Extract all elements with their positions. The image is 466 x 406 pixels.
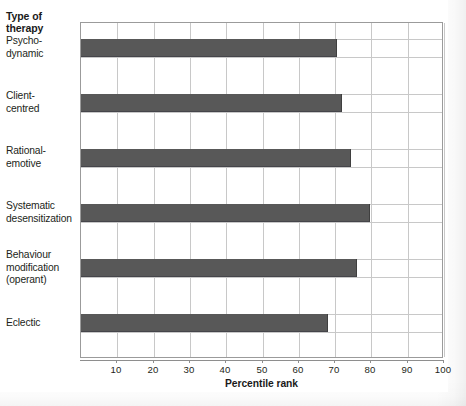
category-label: Eclectic — [6, 317, 84, 330]
x-axis-tick-label: 50 — [247, 364, 277, 375]
gridline-vertical — [117, 23, 118, 357]
category-label-line: Client- — [6, 90, 35, 101]
category-axis-label-column: Type of therapy Psycho-dynamicClient-cen… — [6, 10, 78, 358]
x-axis-tick-label: 80 — [355, 364, 385, 375]
category-label: Systematicdesensitization — [6, 200, 84, 225]
gridline-horizontal — [81, 332, 442, 333]
category-label: Client-centred — [6, 90, 84, 115]
page-background: Type of therapy Psycho-dynamicClient-cen… — [0, 0, 466, 406]
x-axis-tick-label: 10 — [101, 364, 131, 375]
gridline-horizontal — [81, 57, 442, 58]
category-label-line: Behaviour — [6, 249, 51, 260]
gridline-horizontal — [81, 167, 442, 168]
x-axis-tick-label: 70 — [319, 364, 349, 375]
category-axis-title-line1: Type of — [6, 10, 42, 22]
x-axis-tick-mark — [116, 360, 117, 363]
category-label-line: modification — [6, 262, 59, 273]
gridline-vertical — [408, 23, 409, 357]
x-axis-tick-mark — [407, 360, 408, 363]
bar — [81, 204, 370, 222]
category-label-line: Rational- — [6, 145, 46, 156]
x-axis-tick-mark — [334, 360, 335, 363]
gridline-vertical — [444, 23, 445, 357]
x-axis-tick-label: 20 — [138, 364, 168, 375]
x-axis-tick-label: 90 — [392, 364, 422, 375]
x-axis-tick-mark — [262, 360, 263, 363]
category-label: Behaviourmodification(operant) — [6, 249, 84, 287]
x-axis-tick-mark — [370, 360, 371, 363]
gridline-vertical — [263, 23, 264, 357]
gridline-vertical — [190, 23, 191, 357]
gridline-vertical — [299, 23, 300, 357]
plot-grid-and-bars — [81, 23, 442, 357]
bar — [81, 149, 351, 167]
gridline-horizontal — [81, 112, 442, 113]
x-axis-title: Percentile rank — [80, 378, 443, 389]
category-label-line: dynamic — [6, 48, 43, 59]
bar — [81, 259, 357, 277]
x-axis-tick-mark — [225, 360, 226, 363]
category-label-line: centred — [6, 103, 39, 114]
x-axis-tick-mark — [153, 360, 154, 363]
x-axis-tick-mark — [298, 360, 299, 363]
category-label-line: Systematic — [6, 200, 55, 211]
gridline-horizontal — [81, 222, 442, 223]
category-axis-title: Type of therapy — [6, 10, 78, 35]
gridline-vertical — [154, 23, 155, 357]
category-label: Psycho-dynamic — [6, 35, 84, 60]
x-axis-tick-mark — [443, 360, 444, 363]
gridline-vertical — [226, 23, 227, 357]
category-label-line: (operant) — [6, 274, 46, 285]
gridline-vertical — [335, 23, 336, 357]
x-axis-tick-label: 40 — [210, 364, 240, 375]
bar — [81, 314, 328, 332]
category-label-line: emotive — [6, 158, 41, 169]
gridline-vertical — [371, 23, 372, 357]
category-label-line: Psycho- — [6, 35, 42, 46]
category-label-line: Eclectic — [6, 317, 40, 328]
category-axis-title-line2: therapy — [6, 22, 43, 34]
x-axis-tick-label: 100 — [428, 364, 458, 375]
plot-area — [80, 22, 443, 358]
bar — [81, 39, 337, 57]
category-label: Rational-emotive — [6, 145, 84, 170]
bar — [81, 94, 342, 112]
bar-chart-figure: Type of therapy Psycho-dynamicClient-cen… — [0, 0, 448, 392]
x-axis-tick-mark — [189, 360, 190, 363]
category-label-line: desensitization — [6, 213, 72, 224]
gridline-horizontal — [81, 277, 442, 278]
x-axis-tick-label: 60 — [283, 364, 313, 375]
x-axis-tick-label: 30 — [174, 364, 204, 375]
